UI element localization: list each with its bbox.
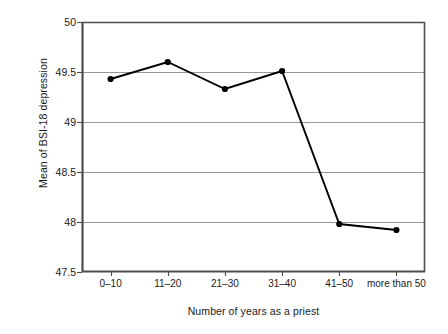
y-axis-tick-label: 50 [36,17,76,27]
data-point-marker [393,227,399,233]
y-axis-tick-label: 48.5 [36,167,76,177]
x-axis-tick-label: more than 50 [362,278,430,290]
y-axis-tick-label: 49 [36,117,76,127]
data-point-marker [165,59,171,65]
data-point-marker [222,86,228,92]
y-axis-tick-label: 48 [36,217,76,227]
line-chart: Mean of BSI-18 depression Number of year… [0,0,448,334]
y-axis-tick-label: 49.5 [36,67,76,77]
data-point-marker [107,76,113,82]
data-point-marker [336,221,342,227]
y-axis-tick-label: 47.5 [36,267,76,277]
data-point-marker [279,68,285,74]
y-axis-ticks [77,23,82,273]
plot-background [82,22,425,272]
x-axis-title: Number of years as a priest [82,305,425,317]
